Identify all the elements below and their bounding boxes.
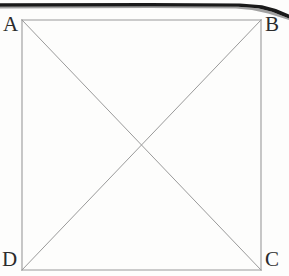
vertex-label-c: C (265, 249, 279, 270)
vertex-label-a: A (3, 14, 18, 35)
vertex-label-d: D (2, 249, 17, 270)
figure-container: A B C D (0, 0, 289, 276)
square-diagonals (22, 20, 261, 270)
vertex-label-b: B (265, 14, 279, 35)
square-diagram (0, 0, 289, 276)
